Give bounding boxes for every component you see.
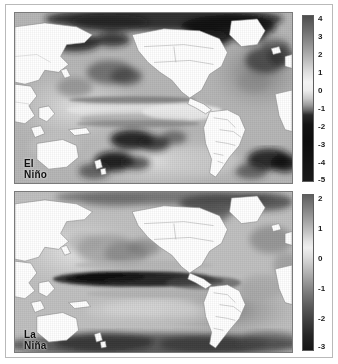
la-nina-map-canvas [15,192,292,352]
colorbar2-tick-1: 1 [318,225,322,233]
colorbar-tick-neg5: -5 [318,176,325,184]
colorbar-tick-neg4: -4 [318,159,325,167]
el-nino-colorbar: 4 3 2 1 0 -1 -2 -3 -4 -5 [302,15,314,182]
la-nina-map [14,191,293,353]
colorbar2-tick-neg1: -1 [318,285,325,293]
colorbar-tick-4: 4 [318,15,322,23]
colorbar2-tick-neg2: -2 [318,315,325,323]
el-nino-panel-label: El Niño [24,158,47,180]
el-nino-map [14,12,293,184]
colorbar-tick-neg2: -2 [318,123,325,131]
colorbar-tick-1: 1 [318,69,322,77]
colorbar2-tick-0: 0 [318,255,322,263]
el-nino-colorbar-gradient [302,15,314,182]
colorbar-tick-0: 0 [318,87,322,95]
el-nino-colorbar-ticks: 4 3 2 1 0 -1 -2 -3 -4 -5 [316,15,338,182]
el-nino-map-canvas [15,13,292,183]
la-nina-colorbar: 2 1 0 -1 -2 -3 [302,194,314,351]
colorbar-tick-neg1: -1 [318,105,325,113]
colorbar2-tick-neg3: -3 [318,343,325,351]
colorbar-tick-3: 3 [318,33,322,41]
figure-root: El Niño 4 3 2 1 0 -1 -2 -3 -4 -5 [0,0,338,364]
la-nina-colorbar-gradient [302,194,314,351]
colorbar2-tick-2: 2 [318,195,322,203]
la-nina-panel-label: La Niña [24,329,46,351]
colorbar-tick-neg3: -3 [318,141,325,149]
colorbar-tick-2: 2 [318,51,322,59]
la-nina-colorbar-ticks: 2 1 0 -1 -2 -3 [316,194,338,351]
